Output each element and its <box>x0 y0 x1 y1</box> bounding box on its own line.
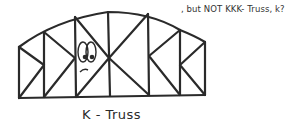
top-chord <box>19 12 205 47</box>
face-doodle <box>78 42 96 72</box>
annotation-text: , but NOT KKK- Truss, k? <box>181 4 285 14</box>
truss-drawing <box>0 0 297 132</box>
mouth-icon <box>80 69 88 72</box>
bottom-chord <box>19 95 205 98</box>
caption-text: K - Truss <box>82 107 141 122</box>
